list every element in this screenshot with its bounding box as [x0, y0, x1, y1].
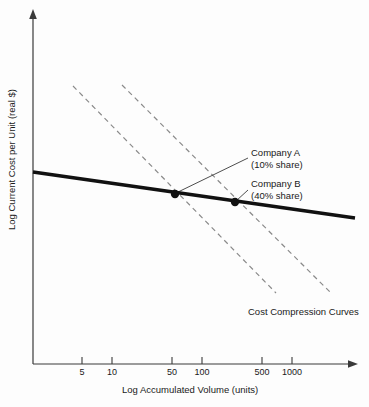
industry-experience-line [33, 172, 355, 218]
x-tick-label-1000: 1000 [282, 367, 302, 377]
y-axis [29, 9, 37, 364]
x-tick-label-5: 5 [79, 367, 84, 377]
x-axis-arrow-icon [348, 360, 358, 368]
annotation-company-a-share: (10% share) [251, 159, 303, 171]
x-tick-label-50: 50 [167, 367, 177, 377]
x-tick-label-100: 100 [194, 367, 209, 377]
annotation-company-b-name: Company B [251, 178, 303, 190]
annotation-cost-compression-curves: Cost Compression Curves [248, 306, 359, 318]
y-axis-title: Log Current Cost per Unit (real $) [6, 89, 17, 230]
y-axis-arrow-icon [29, 9, 37, 19]
x-axis-title: Log Accumulated Volume (units) [122, 384, 258, 395]
x-tick-label-10: 10 [107, 367, 117, 377]
chart-figure: 5 10 50 100 500 1000 Log Accumulated Vol… [0, 0, 369, 407]
chart-canvas [0, 0, 369, 407]
marker-company-b[interactable] [231, 198, 239, 206]
marker-company-a[interactable] [171, 190, 179, 198]
annotation-company-a: Company A (10% share) [251, 147, 303, 170]
x-tick-label-500: 500 [254, 367, 269, 377]
annotation-company-b: Company B (40% share) [251, 178, 303, 201]
annotation-company-b-share: (40% share) [251, 190, 303, 202]
annotation-company-a-name: Company A [251, 147, 303, 159]
leader-line-company-a [176, 158, 248, 193]
compression-curve-a [73, 86, 276, 293]
x-axis-ticks [82, 357, 292, 364]
